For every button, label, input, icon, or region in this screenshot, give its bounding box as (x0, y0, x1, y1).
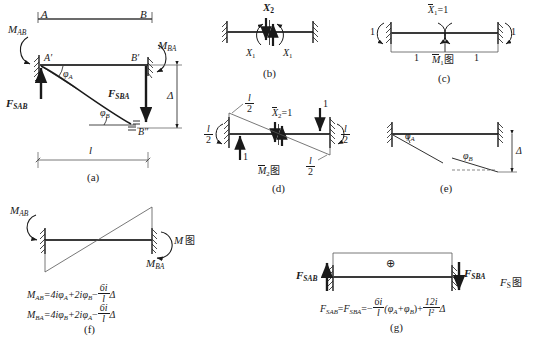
label-g-shear-ba: FSBA (464, 268, 485, 280)
label-m-diagram: M图 (174, 235, 195, 246)
label-f-moment-ba: MBA (146, 258, 164, 270)
label-x2: X2 (263, 2, 274, 14)
label-e-deflection: Δ (516, 146, 522, 156)
label-x1-right: X1 (283, 48, 293, 59)
label-shear-ab: FSAB (6, 98, 27, 110)
label-node-a: A (41, 9, 48, 20)
panel-caption-b: (b) (263, 68, 276, 79)
label-node-a-prime: A′ (44, 53, 52, 63)
label-d-frac-right: l2 (341, 124, 350, 146)
panel-caption-f: (f) (84, 324, 95, 335)
label-c-right-inner: 1 (474, 53, 479, 63)
label-c-left-outer: 1 (370, 27, 375, 37)
figure-canvas: A B MAB MBA A′ B′ B″ φA φB FSAB FSBA Δ l… (0, 0, 535, 343)
label-d-frac-left: l2 (204, 124, 213, 146)
panel-caption-e: (e) (440, 183, 452, 194)
label-x1-left: X1 (246, 48, 256, 59)
panel-caption-d: (d) (272, 183, 285, 194)
panel-caption-a: (a) (87, 172, 99, 183)
label-unit-redundant-x1: X1=1 (428, 5, 448, 16)
equation-shear: FSAB=FSBA=−6il(φA+φB)+12il²Δ (320, 297, 445, 319)
label-moment-ab: MAB (8, 24, 26, 36)
panel-a-graphics (20, 12, 182, 168)
label-d-frac-top: l2 (245, 93, 254, 115)
panel-b-graphics (222, 18, 318, 46)
label-d-reaction-left: 1 (243, 152, 248, 162)
label-c-right-outer: 1 (511, 27, 516, 37)
label-e-rotation-b: φB (463, 151, 473, 162)
label-span-l: l (89, 145, 92, 156)
label-e-rotation-a: φA (405, 131, 415, 142)
label-g-shear-ab: FSAB (296, 270, 317, 282)
label-node-b: B (140, 9, 147, 20)
label-moment-ba: MBA (158, 40, 176, 52)
label-fs-diagram: FS图 (500, 277, 522, 289)
label-m1-diagram: M1图 (432, 55, 454, 66)
plus-sign-icon: ⊕ (386, 258, 395, 269)
label-f-moment-ab: MAB (10, 205, 28, 217)
label-shear-ba: FSBA (108, 88, 129, 100)
label-node-b-double-prime: B″ (138, 127, 148, 137)
label-unit-redundant-x2: X2=1 (272, 108, 292, 119)
label-deflection-delta: Δ (167, 90, 173, 101)
label-d-reaction-right: 1 (323, 99, 328, 109)
panel-c-graphics (377, 22, 511, 52)
label-node-b-prime: B′ (131, 53, 139, 63)
label-c-left-inner: 1 (414, 53, 419, 63)
panel-caption-g: (g) (390, 322, 403, 333)
panel-caption-c: (c) (438, 73, 450, 84)
label-rotation-a: φA (63, 69, 73, 80)
equation-m-ba: MBA=4iφB+2iφA−6ilΔ (27, 303, 115, 325)
label-d-frac-bottom: l2 (306, 156, 315, 178)
label-m2-diagram: M2图 (258, 166, 280, 177)
label-rotation-b: φB (100, 108, 110, 119)
